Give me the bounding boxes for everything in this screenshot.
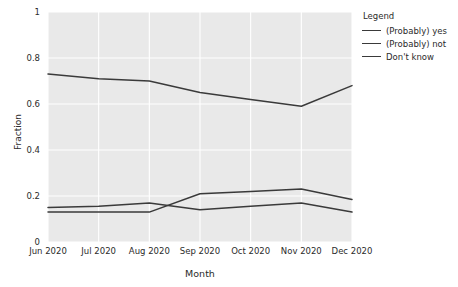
x-axis-title: Month [118,268,282,279]
gridlines [48,12,352,242]
legend-line-swatch [362,43,381,44]
legend-item-label: (Probably) yes [386,26,447,36]
legend: Legend (Probably) yes(Probably) notDon't… [362,11,458,64]
y-axis-tick-label: 0.8 [0,53,40,63]
y-axis-tick-label: 1 [0,7,40,17]
legend-line-swatch [362,30,381,31]
legend-line-swatch [362,56,381,57]
legend-item-1[interactable]: (Probably) not [362,38,458,49]
legend-item-0[interactable]: (Probably) yes [362,25,458,36]
y-axis-tick-label: 0.2 [0,191,40,201]
legend-item-2[interactable]: Don't know [362,51,458,62]
legend-item-label: (Probably) not [386,39,446,49]
legend-title: Legend [362,11,458,21]
y-axis-title: Fraction [13,92,23,172]
legend-entries: (Probably) yes(Probably) notDon't know [362,25,458,62]
legend-item-label: Don't know [386,52,434,62]
x-axis-tick-label: Dec 2020 [320,246,384,256]
line-chart: 00.20.40.60.81 Jun 2020Jul 2020Aug 2020S… [0,0,458,287]
